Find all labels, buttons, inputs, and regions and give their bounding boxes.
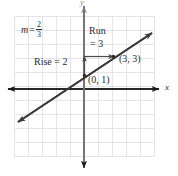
point-marker-0-1: [83, 74, 86, 77]
slope-denominator: 3: [36, 31, 42, 39]
point-label-0-1: (0, 1): [88, 75, 110, 85]
slope-numerator: 2: [36, 21, 42, 29]
slope-label: m= 2 3: [21, 21, 42, 40]
point-label-3-3: (3, 3): [119, 54, 141, 64]
point-marker-3-3: [112, 55, 115, 58]
rise-label: Rise = 2: [34, 57, 67, 67]
y-axis-label: y: [80, 0, 84, 7]
slope-fraction: 2 3: [36, 21, 42, 40]
x-axis-label: x: [165, 83, 169, 92]
slope-equals: =: [28, 24, 36, 35]
slope-graph-figure: m= 2 3 Run = 3 Rise = 2 (3, 3) (0, 1) x …: [0, 0, 178, 176]
run-label-line2: = 3: [90, 39, 103, 49]
run-label-line1: Run: [89, 26, 106, 36]
